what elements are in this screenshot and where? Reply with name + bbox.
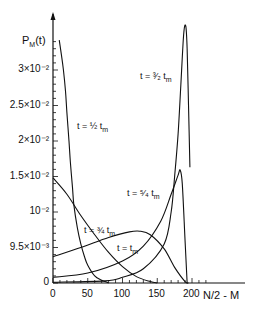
x-tick-label: 0 bbox=[50, 288, 56, 299]
curve-label: t = ³⁄₂ tm bbox=[140, 71, 172, 83]
axes bbox=[51, 12, 246, 283]
y-tick-label: 2.5×10⁻² bbox=[10, 99, 49, 110]
y-tick-label: 9.5×10⁻³ bbox=[10, 241, 49, 252]
x-tick-label: 200 bbox=[183, 288, 200, 299]
curve-series-3 bbox=[53, 170, 187, 283]
curve-label: t = tm bbox=[117, 243, 138, 255]
curve-label: t = ⁵⁄₄ tm bbox=[127, 188, 160, 200]
y-tick-label: 2×10⁻² bbox=[18, 134, 49, 145]
x-tick-label: 100 bbox=[114, 288, 131, 299]
y-axis-arrow-icon bbox=[51, 12, 56, 20]
y-axis-title: PM(t) bbox=[22, 34, 46, 48]
y-tick-label: 1.5×10⁻² bbox=[10, 170, 49, 181]
y-tick-label: 10⁻² bbox=[30, 205, 49, 216]
curve-label: t = ¾ tm bbox=[84, 225, 115, 237]
curve-label: t = ½ tm bbox=[77, 121, 108, 133]
x-tick-label: 50 bbox=[82, 288, 93, 299]
x-axis-title: N/2 - M bbox=[203, 289, 239, 301]
x-tick-label: 150 bbox=[148, 288, 165, 299]
y-tick-label: 0 bbox=[43, 276, 49, 287]
y-tick-label: 3×10⁻² bbox=[18, 63, 49, 74]
